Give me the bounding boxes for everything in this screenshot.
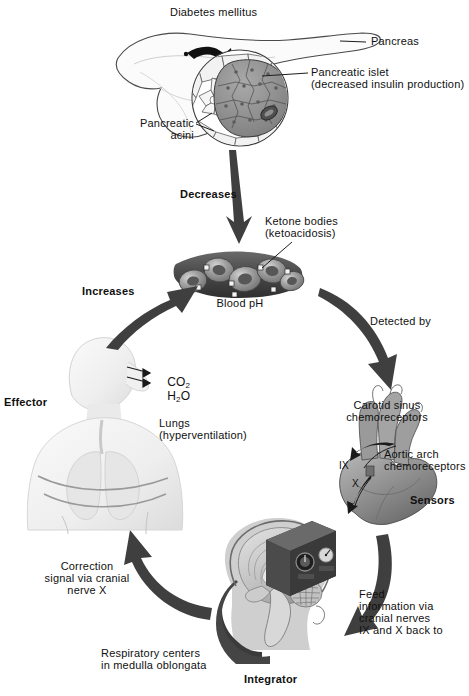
- label-ketone-bodies-line1: Ketone bodies: [265, 215, 338, 228]
- label-h2o: H2O: [153, 377, 190, 419]
- label-pancreatic-islet-line2: (decreased insulin production): [311, 78, 464, 91]
- label-feed-line4: IX and X back to: [359, 624, 443, 637]
- label-cranial-nerve-ix: IX: [339, 460, 349, 473]
- label-pancreatic-acini-line2: acini: [86, 129, 194, 142]
- label-ketone-bodies-line2: (ketoacidosis): [265, 227, 336, 240]
- diabetes-feedback-loop-figure: Diabetes mellitus Pancreas Pancreatic is…: [0, 0, 469, 696]
- label-lungs-line1: Lungs: [159, 417, 190, 430]
- h2o-symbol-h: H: [167, 389, 176, 403]
- label-feed-line1: Feed: [359, 588, 385, 601]
- label-integrator: Integrator: [244, 673, 297, 686]
- label-respiratory-line1: Respiratory centers: [101, 647, 200, 660]
- label-correction-line1: Correction: [32, 560, 142, 573]
- label-correction-line3: nerve X: [32, 584, 142, 597]
- label-carotid-sinus-line1: Carotid sinus: [328, 399, 446, 412]
- label-respiratory-line2: in medulla oblongata: [101, 659, 207, 672]
- label-effector: Effector: [4, 396, 47, 409]
- label-pancreas: Pancreas: [371, 35, 419, 48]
- label-aortic-arch-line2: chemoreceptors: [384, 460, 466, 473]
- h2o-symbol-o: O: [181, 389, 191, 403]
- detected-by-arrow: [318, 288, 397, 390]
- label-feed-line2: information via: [359, 600, 434, 613]
- label-diabetes-mellitus: Diabetes mellitus: [170, 6, 257, 19]
- label-correction-line2: signal via cranial: [32, 572, 142, 585]
- label-blood-ph: Blood pH: [200, 297, 280, 310]
- label-lungs-line2: (hyperventilation): [159, 429, 247, 442]
- label-sensors: Sensors: [410, 494, 455, 507]
- label-detected-by: Detected by: [370, 315, 431, 328]
- label-aortic-arch-line1: Aortic arch: [384, 448, 439, 461]
- label-decreases: Decreases: [180, 188, 237, 201]
- label-carotid-sinus-line2: chemoreceptors: [328, 411, 446, 424]
- label-feed-line3: cranial nerves: [359, 612, 430, 625]
- label-cranial-nerve-x: X: [352, 478, 359, 491]
- label-increases: Increases: [82, 285, 135, 298]
- label-pancreatic-islet-line1: Pancreatic islet: [311, 66, 389, 79]
- label-pancreatic-acini-line1: Pancreatic: [86, 117, 194, 130]
